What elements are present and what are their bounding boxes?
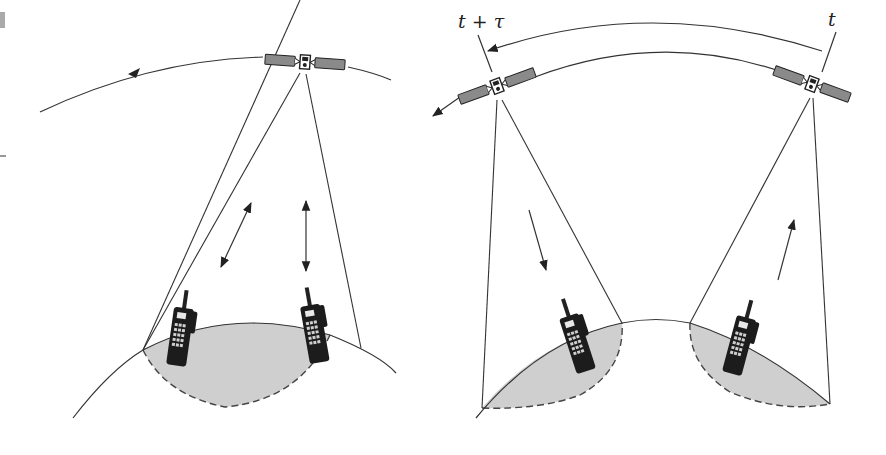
satellite-diagram: t + τ t (0, 0, 886, 455)
label-t: t (828, 8, 836, 30)
orbit-arc-left (40, 57, 263, 112)
satellite-icon (265, 52, 346, 72)
label-t-plus-tau: t + τ (458, 10, 505, 32)
orbit-direction-arrow (433, 97, 460, 116)
time-tick-start (822, 32, 836, 72)
time-tick-end (478, 35, 492, 72)
left-panel (40, 0, 396, 418)
beam-edge (502, 100, 622, 323)
beam-edge-left (143, 0, 300, 350)
beam-edge-left (143, 73, 300, 350)
downlink-arrow (529, 210, 546, 270)
beam-edge (690, 98, 810, 323)
edge-mark (0, 12, 5, 28)
orbit-arc-right (535, 52, 782, 77)
beam-edge (482, 100, 497, 408)
footprint-t (690, 323, 830, 407)
satellite-icon (772, 64, 852, 105)
footprint-t-plus-tau (482, 323, 622, 408)
orbit-arc-left-tail (348, 67, 391, 80)
beam-edge (813, 98, 830, 404)
uplink-arrow (778, 220, 794, 280)
bidirectional-link-arrow (221, 203, 251, 267)
orbit-direction-arrow (128, 68, 140, 78)
right-panel: t + τ t (433, 8, 852, 418)
time-progress-arrow (488, 23, 822, 51)
